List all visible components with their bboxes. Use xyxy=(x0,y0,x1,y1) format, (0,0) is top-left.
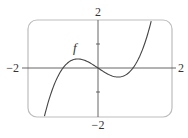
y-min-label: −2 xyxy=(92,118,105,132)
plot-frame xyxy=(28,20,172,117)
x-max-label: 2 xyxy=(178,61,184,75)
function-plot: 2 −2 −2 2 f xyxy=(0,0,188,138)
y-max-label: 2 xyxy=(95,5,101,19)
function-label: f xyxy=(73,40,79,55)
x-min-label: −2 xyxy=(6,61,19,75)
